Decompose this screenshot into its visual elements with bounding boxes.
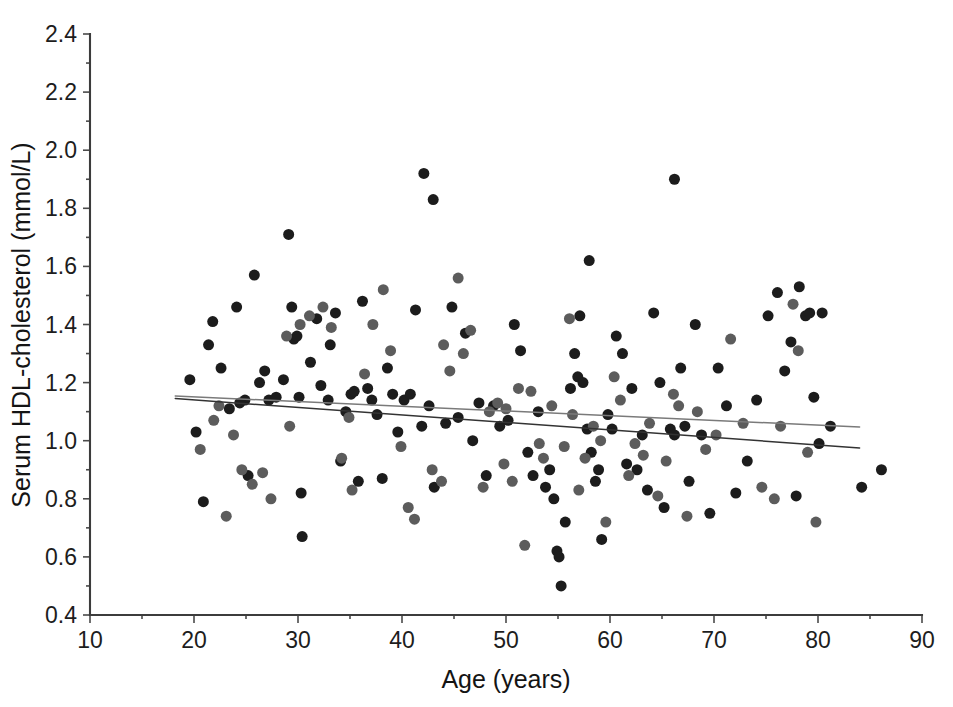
data-point — [785, 336, 796, 347]
data-point — [684, 476, 695, 487]
y-tick-label: 2.2 — [45, 79, 77, 105]
data-point — [207, 316, 218, 327]
data-point — [600, 517, 611, 528]
data-point — [254, 377, 265, 388]
data-point — [208, 415, 219, 426]
data-point — [304, 310, 315, 321]
plot-canvas: 0.40.60.81.01.21.41.61.82.02.22.4 102030… — [0, 0, 953, 707]
data-point — [484, 406, 495, 417]
data-point — [602, 409, 613, 420]
data-point — [296, 487, 307, 498]
data-point — [427, 464, 438, 475]
data-point — [231, 302, 242, 313]
data-point — [769, 493, 780, 504]
data-point — [446, 302, 457, 313]
y-tick-label: 0.8 — [45, 486, 77, 512]
y-axis-tick-labels: 0.40.60.81.01.21.41.61.82.02.22.4 — [45, 21, 77, 628]
data-point — [595, 435, 606, 446]
data-point — [428, 194, 439, 205]
data-point — [367, 319, 378, 330]
data-point — [584, 255, 595, 266]
data-point — [283, 229, 294, 240]
data-point — [661, 456, 672, 467]
data-point — [593, 464, 604, 475]
y-tick-label: 1.4 — [45, 312, 77, 338]
data-point — [317, 302, 328, 313]
data-point — [742, 456, 753, 467]
data-point — [418, 168, 429, 179]
data-point — [453, 412, 464, 423]
data-point — [326, 322, 337, 333]
y-tick-label: 1.8 — [45, 195, 77, 221]
data-point — [385, 345, 396, 356]
data-point — [247, 479, 258, 490]
data-point — [410, 304, 421, 315]
data-point — [623, 470, 634, 481]
y-tick-label: 2.0 — [45, 137, 77, 163]
data-point — [564, 313, 575, 324]
data-point — [349, 386, 360, 397]
data-point — [453, 273, 464, 284]
data-point — [191, 426, 202, 437]
data-point — [501, 403, 512, 414]
data-point — [478, 482, 489, 493]
data-point — [751, 395, 762, 406]
data-point — [668, 389, 679, 400]
data-point — [387, 389, 398, 400]
x-tick-label: 70 — [701, 627, 727, 653]
data-point — [700, 444, 711, 455]
data-point — [359, 368, 370, 379]
data-point — [257, 467, 268, 478]
data-point — [673, 400, 684, 411]
x-axis-title: Age (years) — [441, 665, 570, 693]
data-point — [336, 453, 347, 464]
data-point — [203, 339, 214, 350]
data-point — [642, 485, 653, 496]
data-point — [652, 490, 663, 501]
data-point — [519, 540, 530, 551]
data-point — [590, 476, 601, 487]
data-point — [559, 441, 570, 452]
y-tick-label: 0.4 — [45, 602, 77, 628]
data-point — [221, 511, 232, 522]
x-tick-label: 10 — [77, 627, 103, 653]
x-tick-label: 60 — [597, 627, 623, 653]
data-point — [577, 377, 588, 388]
data-point — [357, 296, 368, 307]
data-point — [738, 418, 749, 429]
data-point — [615, 395, 626, 406]
x-axis-ticks — [90, 615, 922, 623]
data-point — [556, 580, 567, 591]
y-tick-label: 0.6 — [45, 544, 77, 570]
data-point — [347, 485, 358, 496]
data-point — [546, 400, 557, 411]
data-point — [621, 458, 632, 469]
data-point — [286, 302, 297, 313]
data-point — [481, 470, 492, 481]
data-point — [284, 421, 295, 432]
y-axis-title: Serum HDL-cholesterol (mmol/L) — [7, 142, 35, 507]
data-point — [540, 482, 551, 493]
lower-trend-line — [175, 399, 859, 448]
data-point — [343, 412, 354, 423]
data-point — [644, 418, 655, 429]
data-point — [528, 470, 539, 481]
x-tick-label: 80 — [805, 627, 831, 653]
data-point — [372, 409, 383, 420]
data-point — [669, 174, 680, 185]
data-point — [596, 534, 607, 545]
data-point — [395, 441, 406, 452]
data-point — [565, 383, 576, 394]
data-point — [330, 307, 341, 318]
data-point — [810, 517, 821, 528]
data-point — [467, 435, 478, 446]
data-point — [609, 371, 620, 382]
data-point — [515, 345, 526, 356]
data-point — [362, 383, 373, 394]
data-points-group — [184, 168, 887, 592]
data-point — [654, 377, 665, 388]
data-point — [856, 482, 867, 493]
data-point — [574, 310, 585, 321]
data-point — [366, 395, 377, 406]
data-point — [560, 517, 571, 528]
